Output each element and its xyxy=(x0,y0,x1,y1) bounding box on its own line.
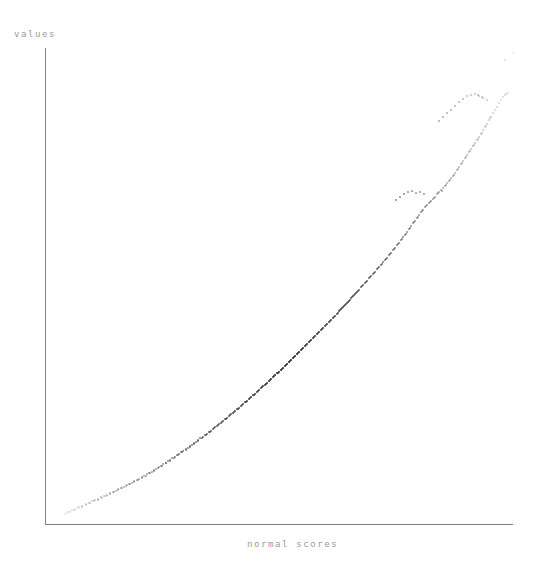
data-point xyxy=(301,348,303,350)
data-point xyxy=(193,443,195,445)
data-point xyxy=(281,368,283,370)
data-point xyxy=(81,506,82,507)
data-point xyxy=(446,112,447,113)
data-point xyxy=(67,511,68,512)
data-point xyxy=(143,475,144,476)
data-point xyxy=(145,475,146,476)
data-point xyxy=(425,205,426,206)
data-point xyxy=(161,465,163,467)
data-point xyxy=(411,190,413,192)
data-point xyxy=(349,299,351,301)
data-point xyxy=(289,360,291,362)
data-point xyxy=(385,258,387,260)
data-point xyxy=(449,179,450,180)
data-point xyxy=(442,116,443,117)
data-point xyxy=(442,187,443,188)
data-point xyxy=(478,136,479,137)
data-point xyxy=(474,142,475,143)
qq-plot-figure: values normal scores xyxy=(0,0,541,561)
data-point xyxy=(321,328,323,330)
data-point xyxy=(345,303,347,305)
data-point xyxy=(461,162,462,163)
data-point xyxy=(489,117,490,118)
data-point xyxy=(217,424,219,426)
data-point xyxy=(382,261,384,263)
data-point xyxy=(277,372,279,374)
data-point xyxy=(505,93,506,94)
data-point xyxy=(137,479,138,480)
data-point xyxy=(131,482,132,483)
data-point xyxy=(500,99,501,100)
data-point xyxy=(462,160,463,161)
data-point xyxy=(71,509,72,510)
data-point xyxy=(141,477,142,478)
data-point xyxy=(305,344,307,346)
data-point xyxy=(325,324,327,326)
data-point xyxy=(450,177,451,178)
data-point xyxy=(343,305,345,307)
data-point xyxy=(209,431,211,433)
data-point xyxy=(165,462,167,464)
data-point xyxy=(418,214,419,215)
data-point xyxy=(445,184,446,185)
plot-canvas xyxy=(0,0,541,561)
data-point xyxy=(201,437,203,439)
data-point xyxy=(133,481,134,482)
data-point xyxy=(477,138,478,139)
data-point xyxy=(470,148,471,149)
data-point xyxy=(361,285,363,287)
data-point xyxy=(399,196,401,198)
data-point xyxy=(189,446,191,448)
data-point xyxy=(249,397,251,399)
data-point xyxy=(492,112,493,113)
data-point xyxy=(365,281,367,283)
data-point xyxy=(504,59,505,60)
data-point xyxy=(488,119,489,120)
data-point xyxy=(273,375,275,377)
data-point xyxy=(157,467,158,468)
data-point xyxy=(465,156,466,157)
data-point xyxy=(437,192,438,193)
data-point xyxy=(205,434,207,436)
data-point xyxy=(438,120,439,121)
data-point xyxy=(213,427,215,429)
data-point xyxy=(309,340,311,342)
data-point xyxy=(421,210,422,211)
data-point xyxy=(454,105,455,106)
data-point xyxy=(113,491,114,492)
data-point xyxy=(482,129,483,130)
data-point xyxy=(419,191,420,192)
data-point xyxy=(77,507,78,508)
data-point xyxy=(377,267,379,269)
data-point xyxy=(446,182,447,183)
data-point xyxy=(155,468,156,469)
data-point xyxy=(109,493,110,494)
data-point xyxy=(151,471,152,472)
data-point xyxy=(507,92,508,93)
data-point xyxy=(89,502,90,503)
data-point xyxy=(355,292,357,294)
data-point xyxy=(357,290,359,292)
data-point xyxy=(496,106,497,107)
data-point xyxy=(93,500,94,501)
data-point xyxy=(512,52,513,53)
data-point xyxy=(393,248,395,250)
data-point xyxy=(469,150,470,151)
data-point xyxy=(103,495,104,496)
data-point xyxy=(293,356,295,358)
data-point xyxy=(241,404,243,406)
data-point xyxy=(269,379,271,381)
data-point xyxy=(85,504,86,505)
data-point xyxy=(429,201,430,202)
data-point xyxy=(466,154,467,155)
data-point xyxy=(149,472,150,473)
data-point xyxy=(167,460,169,462)
data-point xyxy=(474,93,475,94)
data-point xyxy=(402,236,404,238)
data-point xyxy=(341,307,343,309)
data-point xyxy=(401,238,403,240)
data-point xyxy=(65,512,66,513)
data-point xyxy=(191,444,193,446)
data-point xyxy=(347,301,349,303)
data-point xyxy=(433,197,434,198)
